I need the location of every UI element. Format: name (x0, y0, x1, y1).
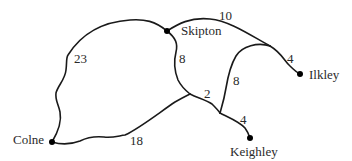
weight-label-junction-b-keighley: 4 (240, 112, 247, 127)
road-colne-skipton (52, 20, 167, 142)
road-network-diagram: Skipton Ilkley Colne Keighley 23 10 4 8 … (0, 0, 352, 161)
weight-label-skipton-east-junction: 10 (219, 8, 232, 23)
node-colne (49, 139, 55, 145)
weight-label-east-junction-junction-b: 8 (233, 73, 240, 88)
town-label-ilkley: Ilkley (309, 67, 340, 82)
node-keighley (247, 135, 253, 141)
weight-label-east-junction-ilkley: 4 (287, 51, 294, 66)
road-east-junction-ilkley (270, 46, 300, 74)
weight-label-junction-a-junction-b: 2 (204, 86, 211, 101)
node-ilkley (297, 71, 303, 77)
weight-label-colne-skipton: 23 (74, 51, 87, 66)
town-label-colne: Colne (13, 132, 44, 147)
town-label-keighley: Keighley (230, 144, 278, 159)
weight-label-colne-junction-a: 18 (130, 133, 143, 148)
road-colne-junction-a (52, 94, 190, 144)
road-east-junction-junction-b (220, 44, 270, 113)
weight-label-skipton-junction-a: 8 (179, 51, 186, 66)
node-skipton (164, 28, 170, 34)
town-label-skipton: Skipton (181, 23, 222, 38)
